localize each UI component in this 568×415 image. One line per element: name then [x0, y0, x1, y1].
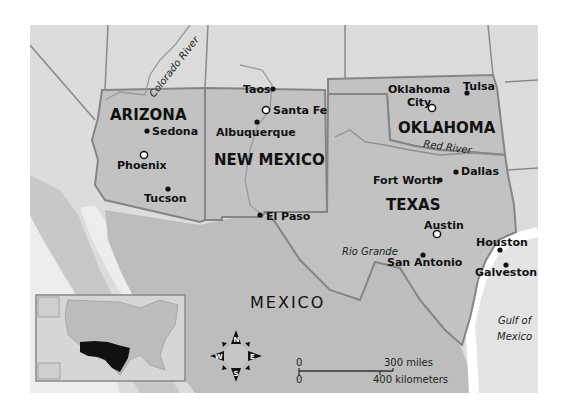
label-texas: TEXAS [386, 196, 440, 214]
inset-hawaii [38, 363, 60, 379]
scale-km-label: 400 kilometers [373, 374, 448, 385]
scale-zero-km: 0 [296, 374, 302, 385]
label-mexico: MEXICO [250, 293, 325, 312]
label-gulf-line2: Mexico [497, 331, 532, 342]
southwest-map: N S E W 0 300 miles 0 400 kilometers ARI… [0, 0, 568, 415]
city-label-galveston: Galveston [475, 266, 537, 279]
inset-alaska [38, 297, 59, 317]
city-label-sedona: Sedona [152, 125, 198, 138]
city-dot-el-paso[interactable] [257, 212, 262, 217]
city-dot-tucson[interactable] [165, 186, 170, 191]
city-label-austin: Austin [424, 219, 464, 232]
capital-star-phoenix[interactable] [140, 151, 147, 158]
compass-w-label: W [215, 353, 223, 361]
city-dot-fort-worth[interactable] [437, 177, 442, 182]
scale-zero-miles: 0 [296, 357, 302, 368]
city-dot-taos[interactable] [270, 86, 275, 91]
city-label-albuquerque: Albuquerque [216, 126, 296, 139]
city-label-san-antonio: San Antonio [387, 256, 463, 269]
label-rio-grande-text: Rio Grande [342, 246, 398, 257]
label-new-mexico: NEW MEXICO [214, 151, 325, 169]
label-rio-grande: Rio Grande [342, 246, 398, 257]
inset-locator-map [36, 295, 185, 381]
compass-s-label: S [234, 370, 239, 378]
city-label-fort-worth: Fort Worth [373, 174, 440, 187]
city-dot-dallas[interactable] [453, 169, 458, 174]
city-dot-albuquerque[interactable] [254, 119, 259, 124]
city-label-el-paso: El Paso [266, 210, 311, 223]
capital-star-austin[interactable] [433, 230, 440, 237]
city-label-houston: Houston [476, 236, 528, 249]
city-label-tucson: Tucson [144, 192, 187, 205]
capital-star-santa-fe[interactable] [262, 106, 269, 113]
capital-star-oklahoma-city[interactable] [428, 104, 435, 111]
city-label-phoenix: Phoenix [117, 159, 167, 172]
city-dot-houston[interactable] [497, 247, 502, 252]
compass-n-label: N [234, 336, 240, 344]
city-label-santa-fe: Santa Fe [273, 104, 327, 117]
city-label-oklahoma-city-2: City [407, 96, 431, 109]
compass-e-label: E [250, 353, 255, 361]
city-dot-tulsa[interactable] [464, 90, 469, 95]
city-label-taos: Taos [243, 83, 271, 96]
label-gulf-line1: Gulf of [498, 315, 533, 326]
city-dot-sedona[interactable] [144, 128, 149, 133]
scale-miles-label: 300 miles [384, 357, 433, 368]
city-label-dallas: Dallas [461, 165, 500, 178]
label-arizona: ARIZONA [110, 106, 187, 124]
label-oklahoma: OKLAHOMA [398, 119, 496, 137]
city-label-oklahoma-city-1: Oklahoma [388, 83, 450, 96]
